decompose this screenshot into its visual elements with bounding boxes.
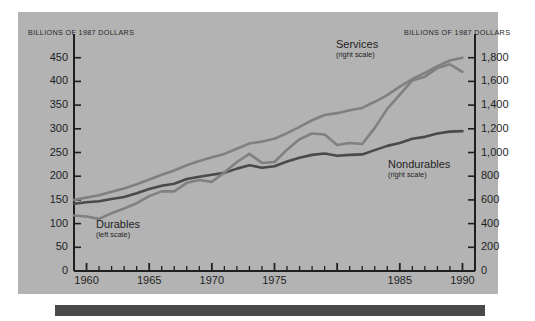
- left-axis-tick-label: 200: [26, 169, 68, 181]
- chart-plot-area: [18, 12, 498, 294]
- series-label-nondurables: Nondurables (right scale): [388, 158, 450, 179]
- x-axis-tick-label: 1960: [64, 274, 110, 286]
- left-axis-tick-label: 0: [26, 264, 68, 276]
- left-axis-tick-label: 450: [26, 51, 68, 63]
- left-axis-units-label: BILLIONS OF 1987 DOLLARS: [28, 28, 134, 37]
- right-axis-tick-label: 400: [481, 217, 527, 229]
- right-axis-units-label: BILLIONS OF 1987 DOLLARS: [404, 28, 510, 37]
- series-label-durables-scale: (left scale): [96, 230, 140, 239]
- x-axis-tick-label: 1975: [252, 274, 298, 286]
- x-axis-tick-label: 1990: [439, 274, 485, 286]
- right-axis-tick-label: 1,000: [481, 146, 527, 158]
- x-axis-tick-label: 1970: [189, 274, 235, 286]
- left-axis-tick-label: 350: [26, 98, 68, 110]
- series-label-nondurables-name: Nondurables: [388, 158, 450, 170]
- footer-rule-bar: [55, 305, 485, 316]
- chart-figure: BILLIONS OF 1987 DOLLARS BILLIONS OF 198…: [0, 0, 535, 321]
- left-axis-tick-label: 400: [26, 74, 68, 86]
- right-axis-tick-label: 0: [481, 264, 527, 276]
- right-axis-tick-label: 1,800: [481, 51, 527, 63]
- left-axis-tick-label: 100: [26, 217, 68, 229]
- series-label-services-name: Services: [336, 38, 378, 50]
- series-label-nondurables-scale: (right scale): [388, 170, 450, 179]
- left-axis-ticks: [74, 58, 81, 271]
- right-axis-tick-label: 800: [481, 169, 527, 181]
- series-label-services: Services (right scale): [336, 38, 378, 59]
- left-axis-tick-label: 50: [26, 240, 68, 252]
- x-axis-ticks: [87, 263, 475, 271]
- right-axis-tick-label: 1,600: [481, 74, 527, 86]
- right-axis-tick-label: 1,400: [481, 98, 527, 110]
- right-axis-ticks: [468, 58, 475, 271]
- left-axis-tick-label: 250: [26, 146, 68, 158]
- left-axis-tick-label: 150: [26, 193, 68, 205]
- right-axis-tick-label: 200: [481, 240, 527, 252]
- right-axis-tick-label: 600: [481, 193, 527, 205]
- series-label-durables-name: Durables: [96, 218, 140, 230]
- x-axis-tick-label: 1985: [377, 274, 423, 286]
- chart-panel: [18, 12, 498, 294]
- left-axis-tick-label: 300: [26, 122, 68, 134]
- series-label-services-scale: (right scale): [336, 50, 378, 59]
- right-axis-tick-label: 1,200: [481, 122, 527, 134]
- x-axis-tick-label: 1965: [126, 274, 172, 286]
- series-label-durables: Durables (left scale): [96, 218, 140, 239]
